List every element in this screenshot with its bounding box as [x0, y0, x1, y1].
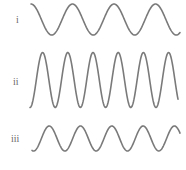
wave-ii	[30, 53, 178, 108]
wave-iii	[32, 126, 180, 151]
waves-figure	[0, 0, 186, 170]
wave-i	[31, 4, 180, 35]
